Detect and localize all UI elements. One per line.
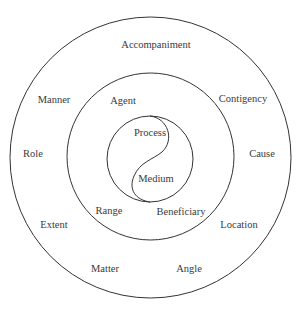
middle-circle — [67, 73, 234, 240]
label-cause: Cause — [249, 148, 275, 159]
concentric-diagram: Process Medium Agent Range Beneficiary A… — [0, 0, 301, 313]
label-range: Range — [96, 205, 123, 216]
label-matter: Matter — [91, 263, 119, 274]
label-process: Process — [134, 127, 166, 138]
label-medium: Medium — [138, 173, 174, 184]
label-extent: Extent — [40, 219, 67, 230]
label-contigency: Contigency — [219, 93, 268, 104]
label-accompaniment: Accompaniment — [121, 39, 190, 50]
label-role: Role — [23, 148, 43, 159]
label-angle: Angle — [176, 263, 202, 274]
label-location: Location — [220, 219, 258, 230]
label-manner: Manner — [38, 94, 71, 105]
label-agent: Agent — [110, 95, 136, 106]
label-beneficiary: Beneficiary — [157, 206, 207, 217]
